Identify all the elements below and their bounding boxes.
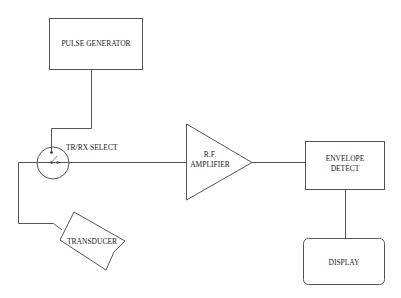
display-label: DISPLAY <box>329 258 361 267</box>
transducer-label: TRANSDUCER <box>67 237 117 246</box>
envelope-detect-block: ENVELOPE DETECT <box>306 142 385 190</box>
display-block: DISPLAY <box>304 239 385 285</box>
block-diagram: PULSE GENERATOR TR/RX SELECT TRANSDUCER … <box>0 0 401 298</box>
envelope-detect-label-line1: ENVELOPE <box>326 154 365 163</box>
rf-amplifier-block: R.F. AMPLIFIER <box>187 124 253 200</box>
trx-select-switch: TR/RX SELECT <box>37 143 118 179</box>
connector-pulse-to-switch <box>52 70 92 153</box>
rf-amplifier-label-line2: AMPLIFIER <box>190 160 230 169</box>
pulse-generator-label: PULSE GENERATOR <box>61 39 130 48</box>
transducer-block: TRANSDUCER <box>60 212 125 270</box>
switch-lever-icon <box>52 156 57 162</box>
envelope-detect-label-line2: DETECT <box>331 164 360 173</box>
rf-amplifier-label-line1: R.F. <box>204 150 216 159</box>
switch-contact-dot <box>50 151 53 154</box>
trx-select-label: TR/RX SELECT <box>66 143 118 152</box>
pulse-generator-block: PULSE GENERATOR <box>50 19 143 70</box>
